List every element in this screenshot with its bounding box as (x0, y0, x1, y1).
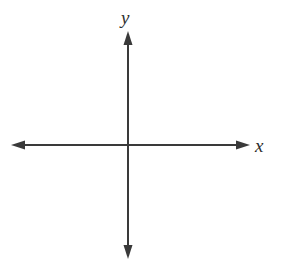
y-axis-negative-arrowhead (124, 245, 133, 259)
coordinate-plane-figure: y x (0, 0, 283, 269)
x-axis-label: x (255, 136, 263, 155)
axes-graphic (0, 0, 283, 269)
x-axis-positive-arrowhead (236, 141, 250, 150)
y-axis-label: y (121, 8, 129, 27)
y-axis-positive-arrowhead (124, 31, 133, 45)
x-axis-negative-arrowhead (11, 141, 25, 150)
